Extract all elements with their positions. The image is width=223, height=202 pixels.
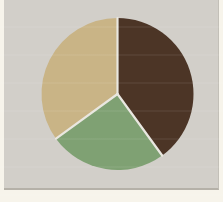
screenshot-root — [0, 0, 223, 202]
pie-chart — [0, 0, 223, 202]
